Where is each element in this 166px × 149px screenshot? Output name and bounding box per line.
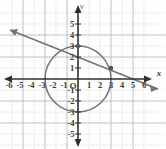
x-tick-label-2: 2 [98,80,102,90]
grid-lines [0,0,166,149]
y-tick-label-1: 1 [70,63,74,73]
x-tick-label-3: 3 [109,80,113,90]
y-tick-label-neg1: -1 [67,85,74,95]
intersection-point-0-3 [76,44,81,49]
x-tick-label-neg6: -6 [5,80,12,90]
y-tick-label-neg4: -4 [67,118,75,128]
intersection-point-3-1 [109,66,114,71]
graph-figure: -6 -5 -4 -3 -2 -1 O 1 2 3 4 5 6 5 4 3 2 … [0,0,166,149]
x-tick-label-4: 4 [120,80,125,90]
x-axis-label: x [156,68,162,78]
y-axis-label: y [79,1,85,11]
y-tick-label-neg5: -5 [67,129,74,139]
y-tick-label-3: 3 [70,41,74,51]
y-tick-label-5: 5 [70,19,74,29]
x-tick-label-neg3: -3 [38,80,45,90]
x-tick-label-neg5: -5 [16,80,23,90]
x-tick-label-neg2: -2 [49,80,56,90]
x-tick-label-5: 5 [131,80,135,90]
coordinate-plane-svg: -6 -5 -4 -3 -2 -1 O 1 2 3 4 5 6 5 4 3 2 … [0,0,166,149]
y-tick-label-2: 2 [70,52,74,62]
y-axis [75,5,82,147]
grid-major-lines [0,0,166,149]
x-tick-label-neg4: -4 [27,80,35,90]
x-tick-label-1: 1 [87,80,91,90]
y-tick-label-neg3: -3 [67,107,74,117]
y-tick-label-neg2: -2 [67,96,74,106]
x-tick-label-6: 6 [142,80,146,90]
